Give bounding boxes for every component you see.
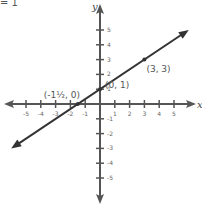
x-tick-label: 5 (172, 110, 176, 117)
y-tick-label: 3 (107, 56, 111, 63)
data-point (98, 87, 102, 91)
x-tick-label: 3 (142, 110, 146, 117)
y-tick-label: 2 (107, 70, 111, 77)
y-tick-label: 4 (107, 41, 111, 48)
y-tick-label: -4 (107, 159, 113, 166)
data-point (76, 102, 80, 106)
x-tick-label: -5 (23, 110, 29, 117)
x-tick-label: 1 (113, 110, 117, 117)
line-start-arrow-icon (11, 140, 22, 149)
y-tick-label: -2 (107, 130, 113, 137)
x-tick-label: -1 (82, 110, 88, 117)
point-label: (3, 3) (146, 64, 170, 74)
y-axis-label: y (91, 1, 98, 12)
point-label: (-1½, 0) (44, 90, 80, 100)
data-point (142, 58, 146, 62)
x-tick-label: 4 (157, 110, 161, 117)
x-tick-label: 2 (128, 110, 132, 117)
y-tick-label: -5 (107, 174, 113, 181)
y-tick-label: 5 (107, 26, 111, 33)
y-tick-label: -3 (107, 144, 113, 151)
coordinate-plane: xy-5-4-3-2-112345-5-4-3-2-112345(-1½, 0)… (0, 0, 202, 206)
point-label: (0, 1) (105, 80, 129, 90)
x-tick-label: -4 (38, 110, 44, 117)
line-end-arrow-icon (178, 30, 189, 39)
y-tick-label: -1 (107, 115, 113, 122)
x-tick-label: -3 (53, 110, 59, 117)
x-axis-label: x (197, 99, 202, 110)
